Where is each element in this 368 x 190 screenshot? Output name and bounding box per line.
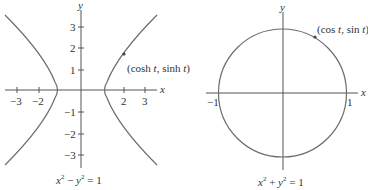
point-label: (cosh t, sinh t) bbox=[127, 62, 190, 75]
y-axis-label: y bbox=[77, 0, 83, 11]
y-tick-label: −1 bbox=[64, 106, 76, 118]
y-tick-label: 2 bbox=[70, 42, 76, 54]
hyperbola-equation: x2 − y2 = 1 bbox=[55, 173, 102, 186]
x-tick-label: 2 bbox=[121, 95, 127, 107]
point-marker bbox=[313, 35, 316, 38]
diagram-canvas: −3 −2 2 3 3 2 1 −1 −2 −3 x y (cosh t, si… bbox=[0, 0, 368, 190]
point-label: (cos t, sin t) bbox=[317, 23, 368, 36]
x-axis-label: x bbox=[159, 83, 165, 95]
x-tick-label: −3 bbox=[10, 95, 22, 107]
x-tick-label: 1 bbox=[347, 96, 353, 108]
y-tick-label: −2 bbox=[64, 128, 76, 140]
y-tick-label: 1 bbox=[70, 64, 76, 76]
x-tick-label: −2 bbox=[32, 95, 44, 107]
hyperbola-plot: −3 −2 2 3 3 2 1 −1 −2 −3 x y (cosh t, si… bbox=[5, 0, 190, 186]
y-tick-label: −3 bbox=[64, 149, 76, 161]
y-axis-label: y bbox=[279, 1, 285, 13]
circle-plot: −1 1 x y (cos t, sin t) x2 + y2 = 1 bbox=[206, 1, 368, 188]
circle-equation: x2 + y2 = 1 bbox=[257, 175, 304, 188]
x-tick-label: −1 bbox=[207, 96, 219, 108]
x-axis-label: x bbox=[360, 86, 366, 98]
y-tick-label: 3 bbox=[70, 21, 76, 33]
point-marker bbox=[122, 52, 125, 55]
x-tick-label: 3 bbox=[142, 95, 148, 107]
